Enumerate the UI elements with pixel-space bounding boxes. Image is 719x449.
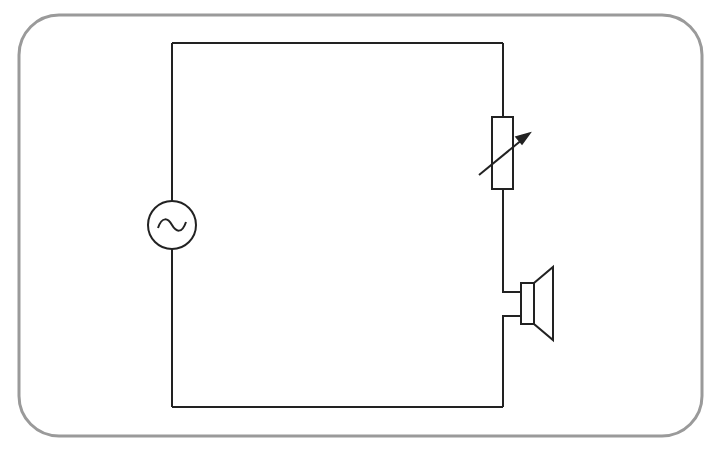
circuit-diagram [0, 0, 719, 449]
diagram-frame [19, 15, 702, 436]
ac-source-icon [148, 201, 196, 249]
